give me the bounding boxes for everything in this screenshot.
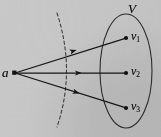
set-label: V [128,2,136,15]
ray-to-v3 [15,73,125,107]
target-point-1-dot [124,36,128,40]
target-point-2-dot [124,71,128,75]
source-point-label: a [2,66,9,79]
target-point-2-label-subscript: 2 [136,70,140,79]
source-point-dot [12,71,16,75]
target-point-3-dot [124,106,128,110]
wavefront-arc-dashed [57,13,67,127]
figure-canvas: a V v1 v2 v3 [0,0,161,137]
target-point-3-label-subscript: 3 [136,105,140,114]
target-point-2-label: v2 [131,65,140,79]
target-point-3-label: v3 [131,100,140,114]
ray-to-v1 [15,39,125,73]
target-point-1-label: v1 [131,30,140,44]
target-point-1-label-subscript: 1 [136,35,140,44]
ray-to-v3-arrowhead [72,89,80,96]
